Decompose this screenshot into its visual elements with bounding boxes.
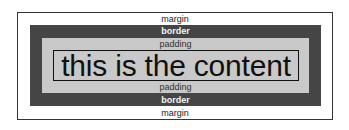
padding-label-bottom: padding <box>42 81 309 93</box>
content-box: this is the content <box>53 50 299 81</box>
border-label-top: border <box>30 25 321 37</box>
border-label-bottom: border <box>30 94 321 106</box>
border-box: border padding this is the content paddi… <box>30 25 321 106</box>
padding-label-top: padding <box>42 38 309 50</box>
content-text: this is the content <box>61 51 291 81</box>
margin-box: margin border padding this is the conten… <box>17 12 333 120</box>
margin-label-top: margin <box>18 13 332 25</box>
padding-box: padding this is the content padding <box>42 38 309 93</box>
margin-label-bottom: margin <box>18 107 332 119</box>
